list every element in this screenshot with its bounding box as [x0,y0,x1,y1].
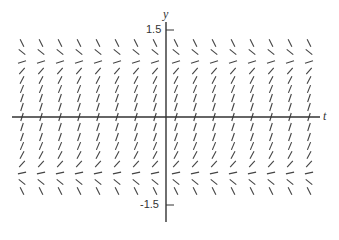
slope-segment [268,49,275,54]
slope-segment [232,94,235,102]
slope-segment [229,172,237,174]
slope-segment [231,76,235,83]
slope-segment [173,179,180,184]
slope-segment [172,172,180,174]
slope-segment [132,61,140,64]
slope-segment [19,49,26,54]
slope-segment [56,61,64,64]
slope-segment [230,179,237,184]
slope-segment [57,68,62,74]
slope-segment [213,123,216,131]
slope-segment [154,123,157,131]
slope-segment [174,142,177,150]
slope-segment [192,179,199,184]
slope-segment [153,142,156,150]
slope-segment [307,151,311,158]
slope-segment [38,68,43,74]
slope-segment [174,76,178,83]
slope-segment [19,161,25,167]
slope-segment [249,68,254,74]
slope-segment [306,161,312,167]
slope-segment [306,68,311,74]
slope-segment [115,39,119,47]
slope-segment [250,151,254,158]
slope-segment [133,68,138,74]
slope-segment [77,142,80,150]
slope-segment [20,187,24,195]
slope-segment [192,68,197,74]
slope-segment [287,68,292,74]
slope-segment [286,61,294,64]
slope-segment [251,103,254,111]
slope-segment [307,85,310,93]
slope-segment [58,39,62,47]
slope-segment [134,76,138,83]
slope-segment [308,103,311,111]
slope-segment [76,68,81,74]
slope-segment [96,76,100,83]
slope-segment [116,123,119,131]
slope-segment [116,103,119,111]
slope-segment [95,68,100,74]
slope-segment [135,123,138,131]
slope-segment [250,187,254,195]
slope-segment [116,133,119,141]
slope-segment [289,123,292,131]
slope-segment [192,49,199,54]
slope-segment [134,85,137,93]
slope-segment [21,133,24,141]
slope-segment [308,94,311,102]
slope-segment [134,39,138,47]
slope-segment [269,187,273,195]
slope-segment [152,68,157,74]
slope-segment [194,103,197,111]
slope-segment [57,49,64,54]
slope-segment [95,161,101,167]
slope-segment [94,61,102,64]
slope-segment [135,133,138,141]
slope-segment [135,94,138,102]
slope-segment [269,39,273,47]
slope-segment [193,187,197,195]
slope-segment [21,123,24,131]
slope-segment [39,39,43,47]
slope-segment [39,151,43,158]
slope-segment [57,179,64,184]
slope-segment [251,94,254,102]
slope-segment [115,85,118,93]
slope-segment [212,142,215,150]
slope-segment [212,151,216,158]
slope-segment [38,179,45,184]
slope-segment [78,103,81,111]
slope-segment [173,49,180,54]
slope-segment [173,161,179,167]
slope-segment [95,49,102,54]
slope-segment [114,49,121,54]
slope-segment [288,85,291,93]
slope-segment [40,103,43,111]
slope-segment [193,39,197,47]
slope-segment [77,85,80,93]
slope-segment [250,142,253,150]
slope-segment [78,123,81,131]
slope-segment [287,161,293,167]
slope-segment [21,103,24,111]
slope-segment [308,123,311,131]
slope-segment [96,39,100,47]
slope-segment [152,161,158,167]
slope-segment [153,187,157,195]
slope-segment [250,85,253,93]
slope-segment [231,39,235,47]
slope-segment [115,187,119,195]
slope-segment [20,85,23,93]
slope-segment [174,151,178,158]
slope-segment [59,123,62,131]
slope-segment [97,123,100,131]
slope-segment [230,68,235,74]
slope-segment [133,49,140,54]
slope-segment [59,103,62,111]
slope-segment [113,61,121,64]
slope-segment [76,161,82,167]
slope-segment [77,76,81,83]
slope-segment [175,94,178,102]
